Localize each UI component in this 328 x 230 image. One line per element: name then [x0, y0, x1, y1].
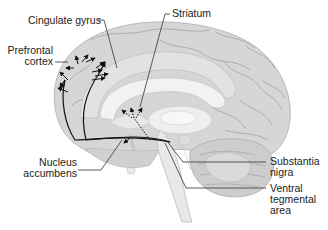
brain-diagram: Cingulate gyrus Prefrontal cortex Striat… — [0, 0, 328, 230]
label-substantia-nigra-line2: nigra — [270, 167, 320, 178]
label-prefrontal-line2: cortex — [7, 56, 53, 67]
label-nucleus-accumbens: Nucleus accumbens — [20, 157, 77, 179]
label-cingulate-gyrus: Cingulate gyrus — [28, 15, 101, 26]
temporal-lobe — [85, 148, 160, 168]
label-ventral-tegmental-area: Ventral tegmental area — [270, 183, 316, 216]
label-substantia-nigra: Substantia nigra — [270, 156, 320, 178]
label-prefrontal-cortex: Prefrontal cortex — [7, 45, 53, 67]
label-vta-line3: area — [270, 205, 316, 216]
label-striatum: Striatum — [172, 8, 211, 19]
label-nucleus-accumbens-line2: accumbens — [20, 168, 77, 179]
